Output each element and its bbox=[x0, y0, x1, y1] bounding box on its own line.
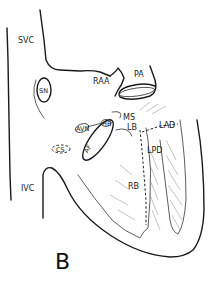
label-sn: SN bbox=[39, 87, 48, 95]
svc-outline bbox=[40, 10, 110, 76]
label-pa: PA bbox=[134, 70, 144, 79]
label-lad: LAD bbox=[159, 121, 175, 130]
septal-arc-1 bbox=[112, 112, 121, 118]
label-svc: SVC bbox=[18, 36, 35, 45]
panel-label: B bbox=[55, 249, 70, 274]
label-cs: CS bbox=[56, 146, 65, 154]
lpd-dashed-branch bbox=[140, 130, 146, 225]
right-atrium-wall bbox=[7, 28, 11, 200]
label-rb: RB bbox=[128, 182, 139, 191]
label-lpd: LPD bbox=[147, 146, 162, 155]
label-raa: RAA bbox=[93, 77, 110, 86]
ivc-ventricle-outline bbox=[43, 120, 204, 257]
label-af: AF bbox=[82, 143, 93, 154]
atrioventricular-fibrous-oval bbox=[78, 116, 119, 164]
right-ventricle-cavity bbox=[78, 128, 151, 238]
label-ms: MS bbox=[123, 113, 135, 122]
label-lb: LB bbox=[127, 123, 137, 132]
label-hb: HB bbox=[102, 120, 111, 128]
heart-conduction-diagram: SVC SN RAA PA AVN HB AF MS LB LAD LPD CS… bbox=[0, 0, 215, 281]
label-avn: AVN bbox=[76, 125, 89, 133]
label-ivc: IVC bbox=[21, 184, 35, 193]
